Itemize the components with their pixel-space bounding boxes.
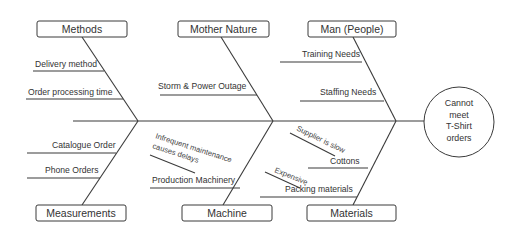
category-mother-nature: Mother Nature Storm & Power Outage (158, 21, 273, 121)
cause-order-processing-time: Order processing time (28, 87, 113, 97)
cause-production-machinery: Production Machinery (152, 175, 236, 185)
mother-nature-label: Mother Nature (190, 23, 257, 35)
cause-delivery-method: Delivery method (35, 59, 97, 69)
fishbone-diagram: Cannot meet T-Shirt orders Methods Deliv… (0, 0, 516, 235)
effect-line-3: T-Shirt (446, 121, 472, 131)
bone-mother-nature (221, 37, 273, 121)
effect-head: Cannot meet T-Shirt orders (424, 87, 494, 157)
bone-methods (82, 37, 138, 121)
cause-training-needs: Training Needs (302, 49, 360, 59)
effect-line-2: meet (449, 110, 469, 120)
category-man: Man (People) Training Needs Staffing Nee… (280, 21, 396, 121)
cause-catalogue-order: Catalogue Order (52, 140, 116, 150)
category-methods: Methods Delivery method Order processing… (26, 21, 138, 121)
machine-label: Machine (207, 207, 247, 219)
effect-line-1: Cannot (445, 98, 474, 108)
cause-staffing-needs: Staffing Needs (320, 87, 376, 97)
cause-cottons: Cottons (330, 156, 360, 166)
cause-phone-orders: Phone Orders (45, 165, 99, 175)
cause-storm-power-outage: Storm & Power Outage (158, 81, 247, 91)
measurements-label: Measurements (46, 207, 115, 219)
man-label: Man (People) (320, 23, 383, 35)
effect-line-4: orders (447, 133, 473, 143)
bone-measurements (82, 121, 138, 205)
category-machine: Machine Production Machinery Infrequent … (150, 121, 273, 221)
category-measurements: Measurements Catalogue Order Phone Order… (27, 121, 138, 221)
category-materials: Materials Cottons Packing materials Supp… (260, 121, 396, 221)
materials-label: Materials (330, 207, 373, 219)
methods-label: Methods (62, 23, 102, 35)
